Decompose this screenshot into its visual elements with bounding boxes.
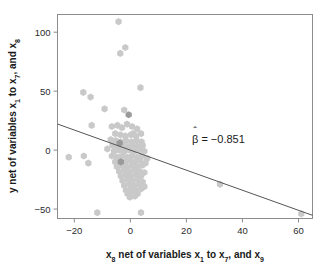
y-tick-label: 0 <box>45 145 50 156</box>
data-point <box>109 123 115 130</box>
data-point <box>94 209 100 216</box>
data-point <box>101 105 107 112</box>
data-point <box>117 50 123 57</box>
y-tick-label: 50 <box>40 86 51 97</box>
added-variable-plot: −200204060 −50050100 x8 net of variables… <box>0 0 327 271</box>
data-point <box>115 18 121 25</box>
x-tick-label: 40 <box>237 225 248 236</box>
beta-hat-accent: ˆ <box>193 125 197 137</box>
data-point <box>138 209 144 216</box>
x-tick-label: 60 <box>293 225 304 236</box>
data-point <box>80 89 86 96</box>
y-axis-tick-labels: −50050100 <box>34 27 50 215</box>
data-point <box>87 93 93 100</box>
data-point <box>137 84 143 91</box>
data-point <box>81 152 87 159</box>
scatter-plot-svg: −200204060 −50050100 x8 net of variables… <box>0 0 327 271</box>
data-point <box>85 159 91 166</box>
data-point <box>66 154 72 161</box>
y-tick-label: 100 <box>35 27 51 38</box>
beta-estimate-text: β = −0.851 <box>192 133 245 145</box>
y-tick-label: −50 <box>34 204 50 215</box>
x-axis-label: x8 net of variables x1 to x7, and x9 <box>106 249 264 263</box>
x-axis-tick-labels: −200204060 <box>66 225 304 236</box>
y-axis-ticks <box>54 32 58 209</box>
y-axis-label: y net of variables x1 to x7, and x8 <box>7 39 21 193</box>
x-tick-label: 0 <box>128 225 133 236</box>
data-points <box>66 18 305 217</box>
x-tick-label: 20 <box>181 225 192 236</box>
regression-line <box>58 124 313 215</box>
plot-frame <box>58 15 313 219</box>
data-point <box>122 44 128 51</box>
x-axis-ticks <box>74 219 298 223</box>
beta-annotation: β = −0.851 ˆ <box>192 125 245 146</box>
data-point <box>89 122 95 129</box>
x-tick-label: −20 <box>66 225 82 236</box>
